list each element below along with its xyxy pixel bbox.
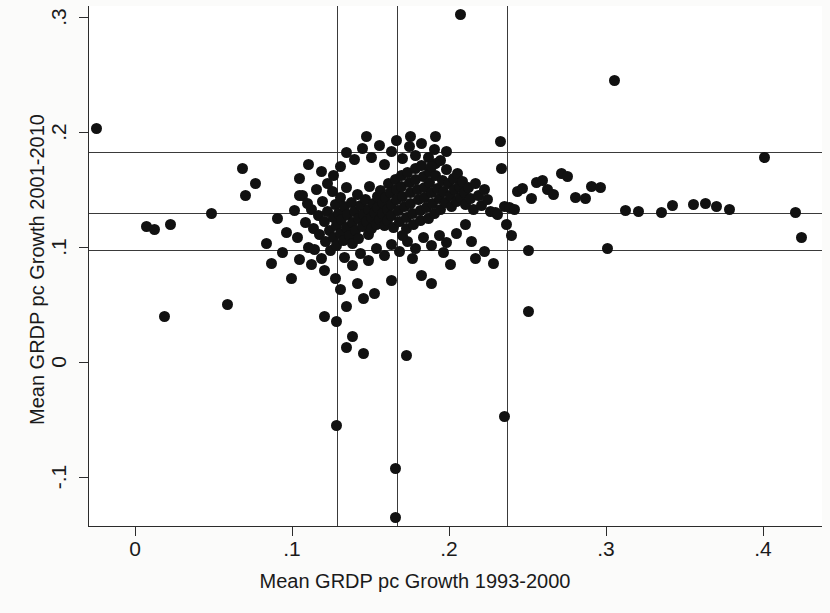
data-point <box>347 331 358 342</box>
data-point <box>633 206 644 217</box>
data-point <box>261 238 272 249</box>
data-point <box>331 420 342 431</box>
data-point <box>294 254 305 265</box>
data-point <box>91 123 102 134</box>
y-tick-mark <box>79 132 88 133</box>
data-point <box>688 199 699 210</box>
data-point <box>379 250 390 261</box>
data-point <box>366 152 377 163</box>
data-point <box>250 178 261 189</box>
data-point <box>523 245 534 256</box>
data-point <box>319 311 330 322</box>
data-point <box>391 135 402 146</box>
data-point <box>352 278 363 289</box>
data-point <box>165 219 176 230</box>
x-tick-label: .3 <box>597 537 615 561</box>
data-point <box>620 205 631 216</box>
data-point <box>407 253 418 264</box>
data-point <box>390 512 401 523</box>
data-point <box>237 163 248 174</box>
data-point <box>149 224 160 235</box>
x-tick-mark <box>449 527 450 536</box>
y-tick-label: -.1 <box>47 462 71 492</box>
data-point <box>277 247 288 258</box>
y-tick-mark <box>79 362 88 363</box>
data-point <box>357 143 368 154</box>
scatter-plot-figure: 0.1.2.3.4 -.10.1.2.3 Mean GRDP pc Growth… <box>0 0 830 613</box>
data-point <box>272 213 283 224</box>
data-point <box>759 152 770 163</box>
data-point <box>294 173 305 184</box>
data-point <box>317 196 328 207</box>
x-tick-label: .2 <box>440 537 458 561</box>
data-point <box>441 237 452 248</box>
data-point <box>331 316 342 327</box>
data-point <box>724 204 735 215</box>
data-point <box>303 159 314 170</box>
data-point <box>441 146 452 157</box>
data-point <box>266 258 277 269</box>
data-point <box>595 182 606 193</box>
data-point <box>335 284 346 295</box>
data-point <box>394 246 405 257</box>
data-point <box>426 161 437 172</box>
data-point <box>222 299 233 310</box>
data-point <box>438 247 449 258</box>
data-point <box>374 140 385 151</box>
data-point <box>347 260 358 271</box>
data-point <box>602 243 613 254</box>
x-tick-label: .4 <box>754 537 772 561</box>
data-point <box>523 306 534 317</box>
data-point <box>609 75 620 86</box>
y-tick-label: .2 <box>47 117 71 147</box>
data-point <box>386 146 397 157</box>
data-point <box>455 9 466 20</box>
y-tick-label: .3 <box>47 2 71 32</box>
data-point <box>390 463 401 474</box>
data-point <box>426 240 437 251</box>
data-point <box>386 275 397 286</box>
data-point <box>410 150 421 161</box>
data-point <box>429 144 440 155</box>
x-tick-label: .1 <box>283 537 301 561</box>
data-point <box>470 253 481 264</box>
data-point <box>667 200 678 211</box>
data-point <box>397 153 408 164</box>
data-point <box>416 138 427 149</box>
data-point <box>361 131 372 142</box>
data-point <box>580 193 591 204</box>
data-point <box>506 230 517 241</box>
data-point <box>341 342 352 353</box>
data-point <box>281 227 292 238</box>
data-point <box>405 131 416 142</box>
data-point <box>499 411 510 422</box>
y-axis-label: Mean GRDP pc Growth 2001-2010 <box>26 0 49 550</box>
data-point <box>240 190 251 201</box>
y-tick-label: .1 <box>47 232 71 262</box>
data-point <box>496 163 507 174</box>
data-point <box>358 293 369 304</box>
data-point <box>501 219 512 230</box>
y-tick-mark <box>79 17 88 18</box>
data-point <box>364 181 375 192</box>
x-axis-label: Mean GRDP pc Growth 1993-2000 <box>0 570 830 593</box>
data-point <box>479 246 490 257</box>
data-point <box>430 131 441 142</box>
data-point <box>319 265 330 276</box>
x-tick-mark <box>763 527 764 536</box>
y-tick-mark <box>79 247 88 248</box>
data-point <box>292 232 303 243</box>
data-point <box>341 301 352 312</box>
data-point <box>330 273 341 284</box>
data-point <box>526 193 537 204</box>
data-point <box>509 204 520 215</box>
data-point <box>488 258 499 269</box>
data-point <box>159 311 170 322</box>
data-point <box>548 189 559 200</box>
data-points-layer <box>89 6 822 526</box>
x-tick-mark <box>135 527 136 536</box>
data-point <box>410 243 421 254</box>
data-point <box>460 219 471 230</box>
data-point <box>302 198 313 209</box>
data-point <box>517 183 528 194</box>
